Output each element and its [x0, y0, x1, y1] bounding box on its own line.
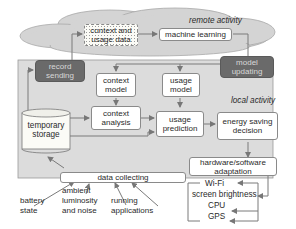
- energy-saving-decision-text: energy saving decision: [219, 117, 277, 135]
- usage-prediction-text: usage prediction: [158, 115, 202, 133]
- context-model-node: context model: [96, 73, 136, 97]
- output-cpu: CPU: [208, 201, 225, 210]
- output-screen-brightness: screen brightness: [192, 190, 257, 199]
- input-running-applications: running applications: [111, 196, 161, 216]
- output-wifi: Wi-Fi: [205, 179, 224, 188]
- record-sending-text: record sending: [42, 62, 78, 80]
- model-updating-text: model updating: [229, 58, 265, 76]
- input-battery-state: battery state: [20, 196, 50, 216]
- record-sending-node: record sending: [35, 60, 85, 82]
- energy-saving-decision-node: energy saving decision: [217, 112, 278, 140]
- model-updating-node: model updating: [220, 56, 274, 78]
- output-gps: GPS: [208, 212, 225, 221]
- data-collecting-node: data collecting: [60, 172, 186, 183]
- machine-learning-text: machine learning: [165, 30, 226, 39]
- usage-model-node: usage model: [162, 73, 200, 97]
- context-usage-data-node: context and usage data: [84, 24, 138, 46]
- context-analysis-node: context analysis: [91, 106, 141, 130]
- machine-learning-node: machine learning: [159, 28, 232, 41]
- hardware-software-adaptation-node: hardware/software adaptation: [189, 157, 277, 176]
- context-usage-data-text: context and usage data: [87, 26, 135, 44]
- hardware-software-adaptation-text: hardware/software adaptation: [193, 158, 273, 176]
- temporary-storage-text: temporary storage: [24, 121, 68, 139]
- context-model-text: context model: [98, 76, 134, 94]
- usage-model-text: usage model: [164, 76, 198, 94]
- context-analysis-text: context analysis: [94, 109, 138, 127]
- data-collecting-text: data collecting: [97, 173, 148, 182]
- local-activity-label: local activity: [231, 96, 275, 105]
- remote-activity-label: remote activity: [189, 16, 242, 25]
- usage-prediction-node: usage prediction: [156, 111, 204, 137]
- input-ambient: ambient luminosity and noise: [62, 186, 110, 216]
